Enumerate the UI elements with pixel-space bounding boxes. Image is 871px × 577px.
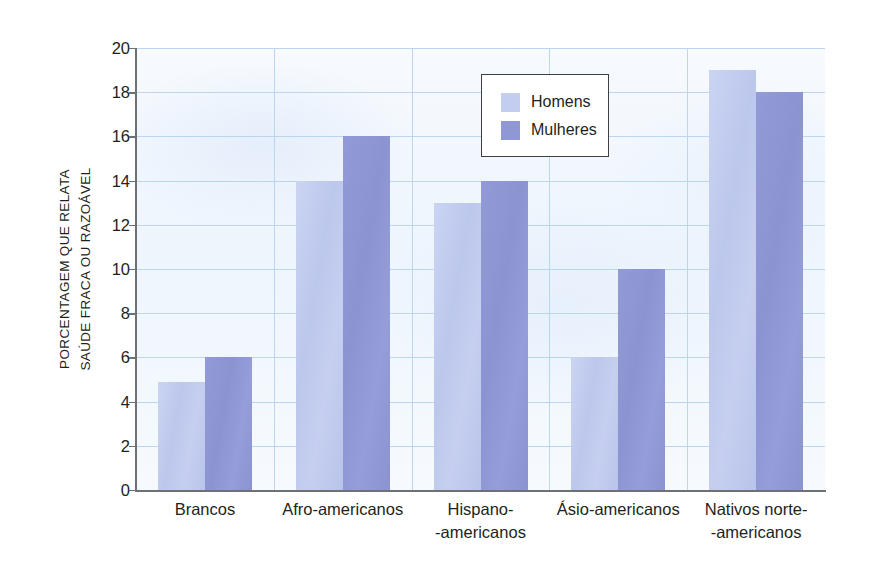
y-axis-tick-label: 16 [100, 128, 130, 145]
gridline-horizontal [136, 48, 825, 49]
x-axis-category-label: Nativos norte--americanos [673, 498, 839, 544]
bar-homens [158, 382, 205, 490]
y-axis-tick-mark [129, 48, 136, 49]
legend-label-mulheres: Mulheres [531, 122, 597, 138]
x-axis-category-label-line-1: Nativos norte- [705, 500, 808, 518]
x-axis-category-label-line-1: Afro-americanos [282, 500, 403, 518]
x-axis-category-label-line-2: -americanos [673, 521, 839, 544]
y-axis-tick-mark [129, 357, 136, 358]
gridline-vertical-group-separator [274, 48, 275, 490]
x-axis-line [135, 490, 826, 492]
y-axis-tick-mark [129, 490, 136, 491]
y-axis-title-line-1: PORCENTAGEM QUE RELATA [54, 169, 75, 369]
bar-chart-figure: PORCENTAGEM QUE RELATA SAÚDE FRACA OU RA… [0, 0, 871, 577]
y-axis-tick-label: 20 [100, 40, 130, 57]
y-axis-title-line-2: SAÚDE FRACA OU RAZOÁVEL [75, 167, 96, 370]
bar-homens [571, 357, 618, 490]
bar-mulheres [756, 92, 803, 490]
y-axis-title: PORCENTAGEM QUE RELATA SAÚDE FRACA OU RA… [52, 48, 98, 490]
legend-swatch-icon-mulheres [501, 121, 520, 140]
legend-swatch-icon-homens [501, 93, 520, 112]
y-axis-tick-mark [129, 225, 136, 226]
x-axis-category-label-line-2: -americanos [398, 521, 564, 544]
y-axis-tick-label: 2 [100, 438, 130, 455]
x-axis-category-label-line-1: Hispano- [447, 500, 513, 518]
y-axis-tick-label: 10 [100, 261, 130, 278]
bar-homens [709, 70, 756, 490]
y-axis-tick-label: 8 [100, 305, 130, 322]
y-axis-tick-label: 12 [100, 217, 130, 234]
y-axis-tick-label: 6 [100, 349, 130, 366]
y-axis-tick-label: 0 [100, 482, 130, 499]
y-axis-tick-label: 4 [100, 394, 130, 411]
y-axis-tick-mark [129, 402, 136, 403]
gridline-vertical-group-separator [687, 48, 688, 490]
y-axis-tick-labels: 02468101214161820 [100, 0, 130, 577]
bar-mulheres [618, 269, 665, 490]
y-axis-tick-mark [129, 181, 136, 182]
bar-mulheres [481, 181, 528, 490]
gridline-vertical-group-separator [412, 48, 413, 490]
x-axis-category-label-line-1: Ásio-americanos [557, 500, 680, 518]
legend-entry-mulheres: Mulheres [501, 116, 608, 144]
y-axis-tick-mark [129, 269, 136, 270]
x-axis-category-label-line-1: Brancos [175, 500, 236, 518]
y-axis-tick-mark [129, 313, 136, 314]
y-axis-tick-mark [129, 92, 136, 93]
bar-mulheres [343, 136, 390, 490]
bar-homens [296, 181, 343, 490]
bar-homens [434, 203, 481, 490]
y-axis-tick-label: 14 [100, 173, 130, 190]
bar-mulheres [205, 357, 252, 490]
legend-label-homens: Homens [531, 94, 591, 110]
y-axis-tick-mark [129, 136, 136, 137]
y-axis-tick-label: 18 [100, 84, 130, 101]
legend-entry-homens: Homens [501, 88, 608, 116]
y-axis-tick-mark [129, 446, 136, 447]
legend: Homens Mulheres [481, 74, 609, 157]
